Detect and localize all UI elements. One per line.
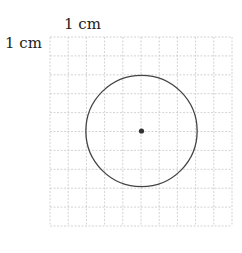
center-point bbox=[139, 128, 144, 133]
grid-diagram bbox=[0, 0, 242, 253]
